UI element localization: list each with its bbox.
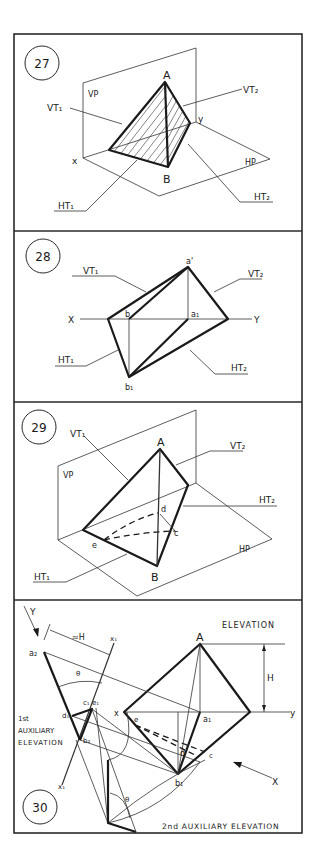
- label-d: d: [180, 749, 185, 758]
- projection-diagram-sheet: 27 A B VP HP x y: [0, 0, 320, 862]
- label-VT2: VT₂: [248, 269, 264, 279]
- label-B: B: [151, 571, 159, 584]
- label-a2: a₂: [29, 649, 37, 658]
- horizontal-plane: [58, 483, 272, 596]
- label-A: A: [157, 436, 165, 449]
- label-X: X: [68, 315, 74, 325]
- label-VT1: VT₁: [47, 103, 63, 113]
- panel-28: 28 a' b a₁ b₁ X Y VT₁ VT₂ HT₁ HT₂: [26, 239, 264, 392]
- label-HT1: HT₁: [58, 355, 74, 365]
- oblique-planes-outline: [83, 449, 188, 566]
- label-VT2: VT₂: [243, 85, 259, 95]
- label-elevation: ELEVATION: [222, 621, 275, 630]
- label-x1-bottom: x₁: [58, 783, 65, 791]
- label-b: b: [125, 310, 130, 319]
- panel-29: 29 A B VP HP d c e VT₁ VT₂ HT₁ HT₂: [22, 410, 277, 596]
- label-d: d: [161, 505, 166, 514]
- label-VP: VP: [63, 471, 73, 480]
- label-d1: d₁: [62, 712, 69, 720]
- label-first-aux-line2: AUXILIARY: [18, 727, 55, 735]
- label-H: H: [267, 673, 274, 683]
- label-HT2: HT₂: [231, 363, 247, 373]
- label-VT2: VT₂: [230, 441, 246, 451]
- label-a-prime: a': [186, 257, 193, 266]
- label-HT2: HT₂: [259, 495, 275, 505]
- label-first-aux-line1: 1st: [18, 715, 29, 723]
- figure-number: 30: [32, 801, 47, 815]
- figure-number: 27: [34, 57, 49, 71]
- label-x1-top: x₁: [110, 635, 117, 643]
- label-a1: a₁: [203, 715, 211, 724]
- outer-frame: [14, 34, 302, 833]
- label-B: B: [163, 173, 171, 186]
- label-theta-2: θ: [125, 796, 129, 804]
- hatched-face-2: [132, 80, 224, 170]
- label-c: c: [174, 529, 178, 538]
- label-b1: b₁: [125, 383, 133, 392]
- label-VT1: VT₁: [70, 429, 86, 439]
- label-Y: Y: [29, 607, 36, 617]
- panel-27: 27 A B VP HP x y: [25, 46, 273, 211]
- label-c1-e1: c₁ e₁: [83, 699, 99, 707]
- label-VP: VP: [88, 90, 98, 99]
- label-y: y: [198, 114, 204, 124]
- label-HP: HP: [239, 545, 250, 554]
- label-first-aux-line3: ELEVATION: [18, 739, 64, 747]
- pyramid-outline: [124, 644, 250, 774]
- figure-number: 28: [35, 250, 50, 264]
- label-approx-H: ≈H: [72, 633, 85, 642]
- label-y: y: [290, 708, 296, 718]
- label-HT2: HT₂: [254, 192, 270, 202]
- line-ab: [165, 82, 168, 167]
- label-second-aux: 2nd AUXILIARY ELEVATION: [162, 822, 279, 831]
- label-HP: HP: [245, 158, 256, 167]
- label-A: A: [196, 631, 204, 644]
- label-e: e: [92, 541, 97, 550]
- label-x: x: [114, 709, 119, 718]
- label-e: e: [134, 716, 138, 724]
- label-b2: b₂: [83, 737, 90, 745]
- label-x: x: [72, 156, 78, 166]
- label-a1: a₁: [191, 310, 199, 319]
- label-A: A: [163, 69, 171, 82]
- figure-number: 29: [31, 421, 46, 435]
- label-HT1: HT₁: [58, 201, 74, 211]
- label-b1: b₁: [175, 779, 183, 788]
- oblique-planes-outline: [109, 82, 190, 167]
- label-Y: Y: [253, 315, 260, 325]
- label-theta: θ: [76, 670, 80, 678]
- label-X: X: [272, 777, 278, 787]
- label-c: c: [209, 752, 213, 760]
- label-VT1: VT₁: [83, 266, 99, 276]
- label-HT1: HT₁: [34, 572, 50, 582]
- panel-30: 30: [18, 606, 296, 832]
